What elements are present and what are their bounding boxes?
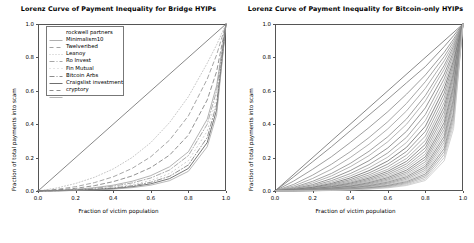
x-tick-label: 1.0	[222, 195, 231, 201]
x-tick-mark	[350, 191, 351, 193]
y-tick-label: 0.4	[21, 121, 34, 127]
legend-item-label: Bitcoin Arbs	[66, 72, 98, 79]
y-tick-label: 0.2	[21, 155, 34, 161]
legend-line-swatch	[49, 72, 63, 79]
legend-item[interactable]: Ro Invest	[49, 57, 121, 64]
x-tick-label: 0.6	[384, 195, 393, 201]
x-tick-label: 0.2	[308, 195, 317, 201]
x-tick-mark	[113, 191, 114, 193]
x-tick-label: 0.6	[147, 195, 156, 201]
y-tick-mark	[36, 191, 38, 192]
legend-item[interactable]: Twelveribed	[49, 43, 121, 50]
y-tick-label: 0.0	[258, 188, 271, 194]
legend-item[interactable]: Bitcoin Arbs	[49, 72, 121, 79]
x-tick-mark	[188, 191, 189, 193]
y-tick-mark	[36, 91, 38, 92]
x-tick-label: 0.8	[421, 195, 430, 201]
legend-item[interactable]: Minimalism10	[49, 36, 121, 43]
y-tick-label: 0.8	[258, 54, 271, 60]
x-tick-mark	[313, 191, 314, 193]
lorenz-curve-figure: Lorenz Curve of Payment Inequality for B…	[0, 0, 474, 243]
y-tick-label: 0.2	[258, 155, 271, 161]
x-tick-mark	[425, 191, 426, 193]
legend-line-swatch	[49, 29, 63, 36]
plot-lines-right	[237, 0, 474, 243]
y-tick-label: 0.6	[21, 88, 34, 94]
legend-item-label: cryptory	[66, 86, 89, 93]
x-tick-mark	[151, 191, 152, 193]
legend-line-swatch	[49, 50, 63, 57]
y-tick-mark	[273, 91, 275, 92]
x-tick-label: 0.0	[271, 195, 280, 201]
legend-item-label: rockwell partners	[66, 29, 113, 36]
y-tick-mark	[273, 24, 275, 25]
legend-item[interactable]: Fin Mutual	[49, 64, 121, 71]
x-tick-label: 0.4	[346, 195, 355, 201]
legend-item[interactable]: rockwell partners	[49, 29, 121, 36]
y-tick-label: 0.4	[258, 121, 271, 127]
legend-item[interactable]: Leanoy	[49, 50, 121, 57]
x-axis-label-left: Fraction of victim population	[0, 208, 237, 214]
y-tick-mark	[36, 124, 38, 125]
panel-bitcoin-only-hyips: Lorenz Curve of Payment Inequality for B…	[237, 0, 474, 243]
x-tick-mark	[76, 191, 77, 193]
y-tick-mark	[273, 158, 275, 159]
legend-item-label: Twelveribed	[66, 43, 98, 50]
legend-item-label: Leanoy	[66, 50, 85, 57]
x-tick-mark	[275, 191, 276, 193]
y-tick-mark	[273, 124, 275, 125]
legend-item-label: Ro Invest	[66, 57, 91, 64]
y-tick-label: 1.0	[258, 21, 271, 27]
x-tick-label: 0.4	[109, 195, 118, 201]
y-tick-mark	[273, 57, 275, 58]
legend-line-swatch	[49, 57, 63, 64]
y-tick-mark	[36, 57, 38, 58]
y-tick-label: 0.6	[258, 88, 271, 94]
legend-item[interactable]: cryptory	[49, 86, 121, 93]
x-axis-label-right: Fraction of victim population	[237, 208, 474, 214]
x-tick-mark	[226, 191, 227, 193]
x-tick-mark	[388, 191, 389, 193]
x-tick-mark	[38, 191, 39, 193]
legend-line-swatch	[49, 43, 63, 50]
legend-item-label: Craigslist investment	[66, 79, 123, 86]
legend-line-swatch	[49, 86, 63, 93]
x-tick-mark	[463, 191, 464, 193]
y-tick-mark	[36, 24, 38, 25]
legend-line-swatch	[49, 79, 63, 86]
legend-line-swatch	[49, 65, 63, 72]
legend-item-label: Minimalism10	[66, 36, 104, 43]
legend-item-label: Fin Mutual	[66, 65, 94, 72]
legend-item[interactable]: Craigslist investment	[49, 79, 121, 86]
y-tick-mark	[273, 191, 275, 192]
y-tick-label: 1.0	[21, 21, 34, 27]
x-tick-label: 0.0	[34, 195, 43, 201]
legend-left[interactable]: rockwell partnersMinimalism10Twelveribed…	[46, 26, 124, 96]
x-tick-label: 0.2	[71, 195, 80, 201]
panel-bridge-hyips: Lorenz Curve of Payment Inequality for B…	[0, 0, 237, 243]
legend-line-swatch	[49, 36, 63, 43]
y-tick-mark	[36, 158, 38, 159]
x-tick-label: 1.0	[459, 195, 468, 201]
x-tick-label: 0.8	[184, 195, 193, 201]
y-tick-label: 0.0	[21, 188, 34, 194]
y-tick-label: 0.8	[21, 54, 34, 60]
